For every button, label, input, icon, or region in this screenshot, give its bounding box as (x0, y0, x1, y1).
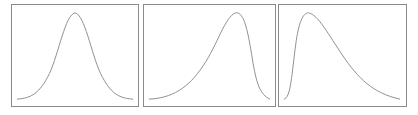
chart-panel-left-skewed (143, 4, 276, 107)
symmetric-curve-plot (12, 5, 138, 106)
left-skewed-distribution-curve (149, 13, 270, 99)
chart-panel-symmetric (11, 4, 139, 107)
symmetric-distribution-curve (17, 13, 133, 99)
right-skewed-curve-plot (279, 5, 406, 106)
left-skewed-curve-plot (144, 5, 275, 106)
chart-panel-right-skewed (278, 4, 407, 107)
right-skewed-distribution-curve (284, 13, 400, 99)
